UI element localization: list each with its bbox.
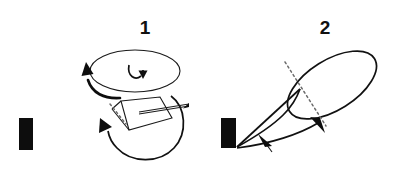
reference-bar-right xyxy=(221,118,236,148)
reference-bar-left xyxy=(19,118,33,150)
figure-root: 1 xyxy=(0,0,409,178)
figure-background xyxy=(0,0,409,178)
technical-diagram: 1 xyxy=(0,0,409,178)
panel-1-label: 1 xyxy=(140,17,151,38)
panel-2-label: 2 xyxy=(320,17,331,38)
